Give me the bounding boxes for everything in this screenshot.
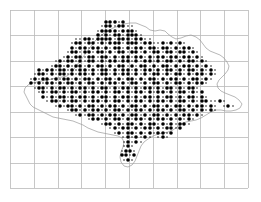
map-plot-canvas [0,0,261,202]
distribution-map-figure: Grid distribution map Dot distribution m… [0,0,261,202]
